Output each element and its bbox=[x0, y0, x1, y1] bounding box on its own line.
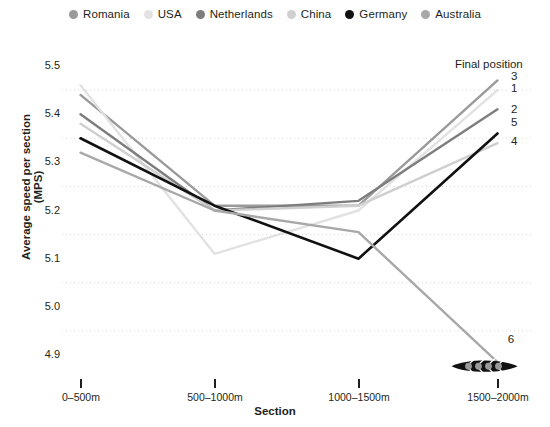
final-position-usa: 1 bbox=[511, 82, 527, 94]
final-position-romania: 3 bbox=[511, 70, 527, 82]
y-tick-5-0: 5.0 bbox=[26, 300, 60, 312]
boat-rower-3 bbox=[495, 363, 502, 370]
series-lines bbox=[81, 80, 498, 362]
y-tick-5-5: 5.5 bbox=[26, 59, 60, 71]
series-line-germany[interactable] bbox=[81, 133, 498, 258]
x-tick-mark-4 bbox=[497, 379, 499, 388]
series-line-netherlands[interactable] bbox=[81, 109, 498, 210]
final-position-china: 4 bbox=[511, 135, 527, 147]
final-position-netherlands: 2 bbox=[511, 103, 527, 115]
plot-area: 5.5 5.4 5.3 5.2 5.1 5.0 4.9 0–500m 500–1… bbox=[0, 0, 550, 427]
x-axis-title: Section bbox=[0, 405, 550, 417]
x-tick-label-500-1000m: 500–1000m bbox=[155, 391, 275, 403]
line-chart: Romania USA Netherlands China Germany Au… bbox=[0, 0, 550, 427]
gridlines bbox=[62, 90, 532, 331]
x-tick-label-1000-1500m: 1000–1500m bbox=[299, 391, 419, 403]
y-tick-4-9: 4.9 bbox=[26, 348, 60, 360]
rowing-boat-icon bbox=[452, 358, 518, 375]
end-markers bbox=[452, 358, 518, 375]
final-position-title: Final position bbox=[455, 58, 523, 70]
final-position-germany: 5 bbox=[511, 116, 527, 128]
boat-rower-0 bbox=[465, 363, 472, 370]
x-tick-mark-3 bbox=[358, 379, 360, 388]
final-position-australia: 6 bbox=[503, 333, 519, 345]
x-tick-mark-1 bbox=[80, 379, 82, 388]
boat-rower-2 bbox=[485, 363, 492, 370]
x-tick-mark-2 bbox=[214, 379, 216, 388]
x-tick-label-1500-2000m: 1500–2000m bbox=[438, 391, 550, 403]
y-axis-title: Average speed per section (MPS) bbox=[20, 107, 44, 267]
boat-rower-1 bbox=[475, 363, 482, 370]
boat-hull bbox=[452, 361, 518, 372]
x-tick-label-0-500m: 0–500m bbox=[21, 391, 141, 403]
